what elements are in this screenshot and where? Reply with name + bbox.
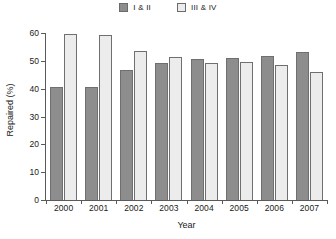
bar[interactable]: [191, 59, 204, 200]
y-tick-label: 50: [30, 56, 39, 66]
bar-group: [116, 33, 151, 200]
bar[interactable]: [99, 35, 112, 200]
bar[interactable]: [120, 70, 133, 200]
bar-group: [292, 33, 327, 200]
y-tick-mark: [41, 33, 45, 34]
legend-item-0[interactable]: I & II: [119, 3, 151, 12]
bar-group: [222, 33, 257, 200]
legend-swatch-icon: [177, 3, 186, 12]
bar[interactable]: [310, 72, 323, 200]
bar[interactable]: [275, 65, 288, 200]
x-tick-mark: [327, 200, 328, 204]
y-tick-mark: [41, 200, 45, 201]
bar[interactable]: [134, 51, 147, 200]
y-tick-label: 60: [30, 28, 39, 38]
bar[interactable]: [261, 56, 274, 200]
bar-group: [46, 33, 81, 200]
y-tick-label: 20: [30, 139, 39, 149]
bar[interactable]: [226, 58, 239, 200]
bar-group: [151, 33, 186, 200]
x-axis-title: Year: [46, 220, 327, 230]
chart-legend: I & II III & IV: [0, 3, 336, 12]
x-tick-label: 2005: [222, 203, 257, 217]
y-tick-mark: [41, 172, 45, 173]
x-tick-label: 2006: [257, 203, 292, 217]
y-axis-title: Repaired (%): [5, 62, 15, 158]
y-tick-mark: [41, 89, 45, 90]
y-tick-label: 0: [34, 195, 39, 205]
x-tick-label: 2000: [46, 203, 81, 217]
legend-label: I & II: [133, 3, 151, 12]
legend-item-1[interactable]: III & IV: [177, 3, 217, 12]
bar-group: [81, 33, 116, 200]
bar[interactable]: [155, 63, 168, 200]
x-tick-label: 2002: [116, 203, 151, 217]
bar[interactable]: [64, 34, 77, 200]
x-tick-label: 2007: [292, 203, 327, 217]
x-tick-label: 2004: [187, 203, 222, 217]
bar-groups: [46, 33, 327, 200]
x-axis-tick-labels: 20002001200220032004200520062007: [46, 203, 327, 217]
bar[interactable]: [169, 57, 182, 200]
bar[interactable]: [50, 87, 63, 200]
bar-group: [187, 33, 222, 200]
legend-label: III & IV: [191, 3, 217, 12]
y-tick-label: 30: [30, 112, 39, 122]
bar[interactable]: [205, 63, 218, 200]
y-tick-mark: [41, 144, 45, 145]
legend-swatch-icon: [119, 3, 128, 12]
x-tick-label: 2003: [151, 203, 186, 217]
y-tick-label: 40: [30, 84, 39, 94]
bar-chart: I & II III & IV 0102030405060 2000200120…: [0, 0, 336, 239]
bar-group: [257, 33, 292, 200]
y-tick-label: 10: [30, 167, 39, 177]
y-tick-mark: [41, 61, 45, 62]
bar[interactable]: [240, 62, 253, 200]
x-tick-label: 2001: [81, 203, 116, 217]
y-tick-mark: [41, 117, 45, 118]
bar[interactable]: [85, 87, 98, 200]
bar[interactable]: [296, 52, 309, 200]
